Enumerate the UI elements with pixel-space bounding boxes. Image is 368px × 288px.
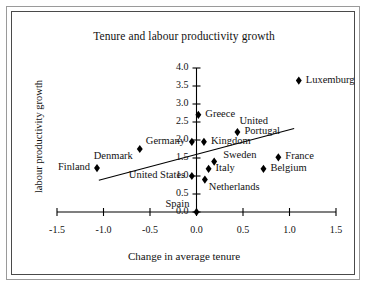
y-axis-title: labour productivity growth [33, 72, 44, 202]
data-point-label: Sweden [223, 149, 256, 160]
data-point-marker [275, 153, 281, 161]
data-point-label: United States [129, 169, 185, 180]
data-point-marker [94, 164, 100, 172]
y-tick-label: 3.0 [143, 97, 189, 108]
data-point-label: United [239, 115, 268, 126]
y-tick-label: 2.5 [143, 115, 189, 126]
y-tick-label: 0.5 [143, 187, 189, 198]
data-point-label: Germany [146, 135, 185, 146]
data-point-label: Spain [166, 198, 190, 209]
x-tick-label: -1.0 [79, 224, 129, 235]
data-point-marker [296, 77, 302, 85]
x-tick-label: -0.5 [125, 224, 175, 235]
data-point-label: Luxemburg [306, 74, 355, 85]
data-point-label: Belgium [270, 162, 306, 173]
data-point-marker [189, 138, 195, 146]
data-point-label: Finland [58, 161, 90, 172]
x-axis-title: Change in average tenure [0, 250, 368, 262]
data-point-marker [261, 165, 267, 173]
data-point-label: Netherlands [209, 181, 260, 192]
data-point-marker [189, 172, 195, 180]
data-point-marker [202, 176, 208, 184]
data-point-label: France [285, 150, 314, 161]
x-tick-label: 0.0 [172, 224, 222, 235]
x-tick-label: 1.5 [311, 224, 361, 235]
data-point-marker [206, 165, 212, 173]
x-tick-label: 0.5 [218, 224, 268, 235]
scatter-chart: Tenure and labour productivity growth -1… [0, 0, 368, 288]
x-tick-label: -1.5 [32, 224, 82, 235]
data-point-label: Denmark [94, 150, 133, 161]
data-point-label: Kingdom [211, 135, 251, 146]
y-tick-label: 1.5 [143, 151, 189, 162]
data-point-label: Greece [205, 108, 235, 119]
data-point-marker [194, 208, 200, 216]
data-point-label: Italy [216, 162, 235, 173]
x-tick-label: 1.0 [265, 224, 315, 235]
data-point-marker [201, 138, 207, 146]
y-tick-label: 4.0 [143, 61, 189, 72]
y-tick-label: 3.5 [143, 79, 189, 90]
